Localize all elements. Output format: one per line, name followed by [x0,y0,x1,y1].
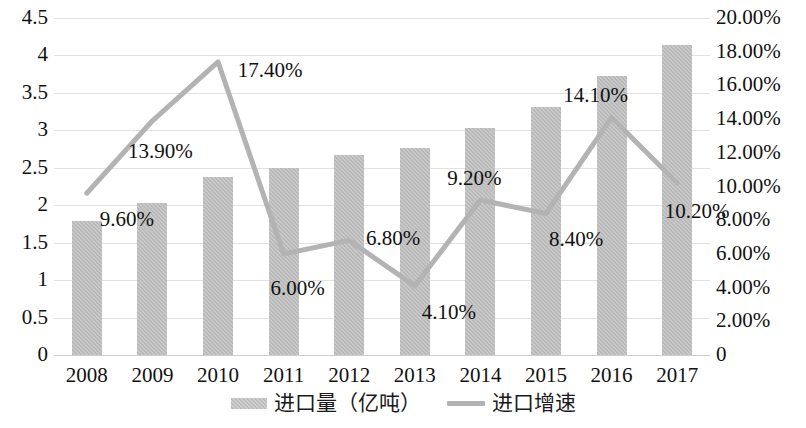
line-data-label: 9.20% [447,167,501,188]
x-axis-tick-label: 2015 [511,365,581,386]
left-axis-tick-label: 0 [0,344,48,365]
line-data-label: 9.60% [100,209,154,230]
line-data-label: 6.00% [270,277,324,298]
left-axis-tick-label: 2.5 [0,157,48,178]
line-data-label: 6.80% [366,228,420,249]
x-axis-tick-label: 2008 [52,365,122,386]
right-axis-tick-label: 0 [716,344,806,365]
x-axis-tick-label: 2017 [642,365,712,386]
line-data-label: 17.40% [238,59,303,80]
left-axis-tick-label: 3 [0,119,48,140]
x-axis-tick-label: 2009 [117,365,187,386]
right-axis-tick-label: 10.00% [716,176,806,197]
chart-container: 00.511.522.533.544.5 02.00%4.00%6.00%8.0… [0,0,806,428]
x-axis-tick-label: 2013 [380,365,450,386]
bar-swatch-icon [231,398,267,409]
line-data-label: 4.10% [422,301,476,322]
legend-item-label: 进口量（亿吨） [274,392,421,415]
line-data-label: 8.40% [549,229,603,250]
left-axis-tick-label: 0.5 [0,307,48,328]
x-axis-tick-label: 2014 [445,365,515,386]
left-axis-tick-label: 3.5 [0,82,48,103]
left-axis-tick-label: 4 [0,44,48,65]
x-axis-tick-label: 2012 [314,365,384,386]
chart-legend: 进口量（亿吨） 进口增速 [0,392,806,415]
right-axis-tick-label: 12.00% [716,142,806,163]
line-data-label: 14.10% [563,85,628,106]
right-axis-tick-label: 2.00% [716,310,806,331]
line-series [54,18,710,355]
right-axis-tick-label: 18.00% [716,41,806,62]
left-axis-tick-label: 1 [0,269,48,290]
right-axis-tick-label: 16.00% [716,74,806,95]
plot-area: 9.60%13.90%17.40%6.00%6.80%4.10%9.20%8.4… [54,18,710,355]
left-axis-tick-label: 4.5 [0,7,48,28]
axis-baseline [54,355,710,356]
right-axis-tick-label: 6.00% [716,243,806,264]
legend-item-label: 进口增速 [492,392,576,415]
right-axis-tick-label: 14.00% [716,108,806,129]
right-axis-tick-label: 4.00% [716,277,806,298]
right-axis-tick-label: 20.00% [716,7,806,28]
line-data-label: 13.90% [128,140,193,161]
x-axis-tick-label: 2016 [577,365,647,386]
x-axis-tick-label: 2010 [183,365,253,386]
line-data-label: 10.20% [665,201,730,222]
legend-item-import-volume[interactable]: 进口量（亿吨） [231,392,421,415]
left-axis-tick-label: 1.5 [0,232,48,253]
line-swatch-icon [447,401,485,406]
x-axis-tick-label: 2011 [249,365,319,386]
legend-item-import-growth[interactable]: 进口增速 [447,392,576,415]
left-axis-tick-label: 2 [0,194,48,215]
